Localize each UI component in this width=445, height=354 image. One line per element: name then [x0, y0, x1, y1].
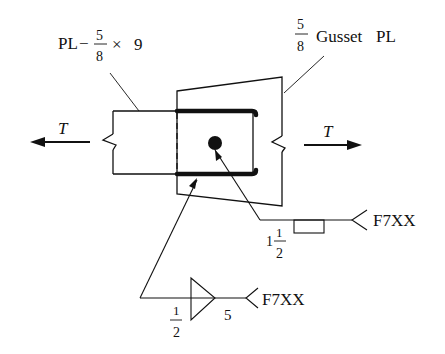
- fillet-weld-tail: [246, 288, 258, 308]
- gusset-label-pl: PL: [376, 27, 396, 46]
- gusset-label-text: Gusset: [316, 27, 363, 46]
- plug-weld-frac-den: 2: [276, 246, 283, 261]
- splice-plate-break-mark: [103, 134, 116, 150]
- tension-label-right: T: [323, 122, 334, 141]
- plug-weld-electrode: F7XX: [373, 211, 416, 230]
- plug-weld-size-whole: 1: [266, 234, 273, 249]
- fillet-weld-top: [177, 111, 256, 115]
- splice-plate-times: ×: [112, 35, 122, 54]
- splice-plate-label-pl: PL: [58, 34, 78, 53]
- splice-plate-frac-num: 5: [96, 28, 103, 43]
- splice-plate-frac-den: 8: [96, 49, 103, 64]
- fillet-weld-length: 5: [224, 307, 232, 323]
- plug-weld-symbol: [294, 220, 324, 233]
- gusset-frac-num: 5: [297, 17, 304, 32]
- splice-plate-label-dash: −: [79, 34, 89, 53]
- plug-weld-frac-num: 1: [276, 225, 283, 240]
- plug-weld-tail: [352, 210, 367, 230]
- splice-plate-leader: [110, 73, 139, 111]
- gusset-frac-den: 8: [297, 39, 304, 54]
- splice-plate-width: 9: [134, 35, 143, 54]
- fillet-weld-bottom: [177, 170, 256, 174]
- weld-connection-diagram: T T PL − 5 8 × 9 5 8 Gusset PL F7XX 1 1 …: [0, 0, 445, 354]
- splice-plate: [113, 111, 253, 174]
- fillet-weld-electrode: F7XX: [262, 290, 305, 309]
- gusset-plate-leader: [284, 56, 324, 93]
- fillet-weld-frac-den: 2: [173, 325, 180, 340]
- plug-weld: [208, 136, 222, 150]
- fillet-weld-frac-num: 1: [173, 303, 180, 318]
- tension-label-left: T: [58, 119, 69, 138]
- fillet-weld-symbol: [191, 278, 215, 320]
